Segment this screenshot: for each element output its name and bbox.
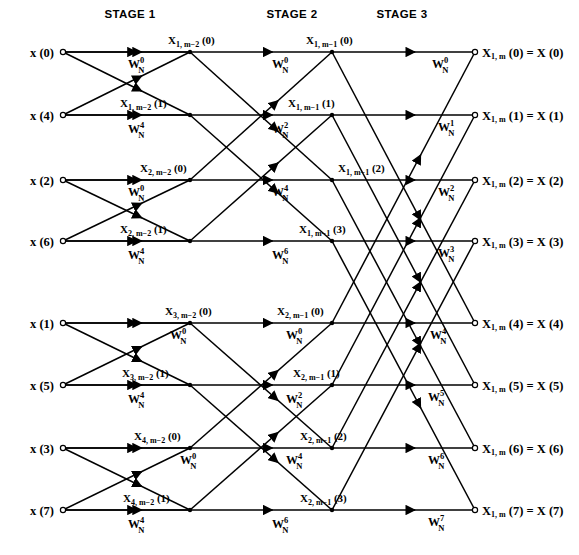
stage-header-3: STAGE 3 bbox=[376, 8, 427, 20]
input-label-0: x (0) bbox=[30, 46, 54, 60]
stage1-node-1 bbox=[188, 113, 192, 117]
output-terminal-7 bbox=[472, 507, 477, 512]
stage1-node-6 bbox=[188, 446, 192, 450]
input-label-1: x (4) bbox=[30, 109, 54, 123]
input-terminal-6 bbox=[60, 445, 65, 450]
stage2-node-6 bbox=[330, 446, 334, 450]
input-label-5: x (5) bbox=[30, 379, 54, 393]
output-terminal-2 bbox=[472, 177, 477, 182]
input-label-4: x (1) bbox=[30, 317, 54, 331]
stage2-node-4 bbox=[330, 321, 334, 325]
stage1-node-3 bbox=[188, 239, 192, 243]
stage2-node-2 bbox=[330, 178, 334, 182]
output-terminal-1 bbox=[472, 112, 477, 117]
input-terminal-7 bbox=[60, 507, 65, 512]
input-terminal-3 bbox=[60, 238, 65, 243]
stage2-node-1 bbox=[330, 113, 334, 117]
output-terminal-6 bbox=[472, 445, 477, 450]
fft-signal-flow-graph: STAGE 1STAGE 2STAGE 3 x (0)x (4)x (2)x (… bbox=[0, 0, 579, 555]
stage-headers: STAGE 1STAGE 2STAGE 3 bbox=[104, 8, 427, 20]
stage2-node-7 bbox=[330, 508, 334, 512]
stage1-node-7 bbox=[188, 508, 192, 512]
stage1-node-5 bbox=[188, 383, 192, 387]
input-terminal-0 bbox=[60, 49, 65, 54]
output-terminal-5 bbox=[472, 382, 477, 387]
stage-header-2: STAGE 2 bbox=[266, 8, 317, 20]
input-label-3: x (6) bbox=[30, 235, 54, 249]
input-terminal-1 bbox=[60, 112, 65, 117]
stage2-node-0 bbox=[330, 50, 334, 54]
input-terminal-2 bbox=[60, 177, 65, 182]
input-label-6: x (3) bbox=[30, 442, 54, 456]
input-label-7: x (7) bbox=[30, 504, 54, 518]
stage2-node-3 bbox=[330, 239, 334, 243]
input-terminal-4 bbox=[60, 320, 65, 325]
output-terminal-4 bbox=[472, 320, 477, 325]
stage1-node-0 bbox=[188, 50, 192, 54]
output-terminal-3 bbox=[472, 238, 477, 243]
stage1-node-4 bbox=[188, 321, 192, 325]
stage-header-1: STAGE 1 bbox=[104, 8, 155, 20]
input-label-2: x (2) bbox=[30, 174, 54, 188]
stage2-node-5 bbox=[330, 383, 334, 387]
input-terminal-5 bbox=[60, 382, 65, 387]
stage1-node-2 bbox=[188, 178, 192, 182]
output-terminal-0 bbox=[472, 49, 477, 54]
